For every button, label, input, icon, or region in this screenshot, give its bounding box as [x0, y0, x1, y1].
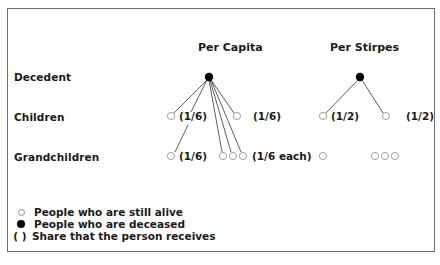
per-capita-grandchild-node-3	[229, 152, 236, 159]
per-stirpes-grandchild-node-4	[391, 152, 398, 159]
per-capita-decedent-node	[205, 73, 213, 81]
parentheses-icon: ( )	[12, 230, 28, 242]
legend-deceased-label: People who are deceased	[34, 218, 185, 230]
row-label-children: Children	[14, 111, 64, 123]
open-circle-icon	[14, 206, 28, 218]
per-stirpes-grandchild-node-2	[371, 152, 378, 159]
per-stirpes-grandchild-node-1	[319, 152, 326, 159]
per-capita-grandchildren-group-share: (1/6 each)	[252, 150, 312, 162]
line-decedent-to-child-1	[174, 80, 207, 113]
per-stirpes-child-1-share: (1/2)	[331, 110, 359, 122]
line-stirpes-decedent-to-child-2	[362, 80, 383, 113]
per-capita-grandchild-node-2	[219, 152, 226, 159]
per-capita-child-node-1	[167, 112, 174, 119]
per-stirpes-grandchild-node-3	[381, 152, 388, 159]
per-stirpes-child-2-share: (1/2)	[406, 110, 434, 122]
line-decedent-to-child-1-branch	[191, 80, 207, 112]
line-stirpes-decedent-to-child-1	[326, 80, 358, 113]
line-decedent-to-grandchild-b	[210, 80, 231, 152]
row-label-grandchildren: Grandchildren	[14, 151, 99, 163]
per-stirpes-heading: Per Stirpes	[330, 41, 399, 54]
filled-circle-icon	[14, 218, 28, 230]
per-capita-child-2-share: (1/6)	[253, 110, 281, 122]
legend-item-deceased: People who are deceased	[14, 218, 185, 230]
per-capita-grandchild-node-1	[167, 152, 174, 159]
per-stirpes-child-node-2	[382, 112, 389, 119]
legend-item-alive: People who are still alive	[14, 206, 183, 218]
legend-share-label: Share that the person receives	[32, 230, 215, 242]
per-stirpes-decedent-node	[356, 73, 364, 81]
line-child-to-grandchild	[175, 125, 188, 152]
per-stirpes-child-node-1	[319, 112, 326, 119]
per-capita-grandchild-1-share: (1/6)	[179, 150, 207, 162]
per-capita-child-1-share: (1/6)	[179, 110, 207, 122]
per-stirpes-lines	[326, 80, 383, 113]
legend-alive-label: People who are still alive	[34, 206, 183, 218]
per-capita-grandchild-node-4	[239, 152, 246, 159]
per-capita-child-node-2	[233, 112, 240, 119]
row-label-decedent: Decedent	[14, 71, 71, 83]
legend-item-share: ( ) Share that the person receives	[12, 230, 215, 242]
per-capita-heading: Per Capita	[198, 41, 263, 54]
